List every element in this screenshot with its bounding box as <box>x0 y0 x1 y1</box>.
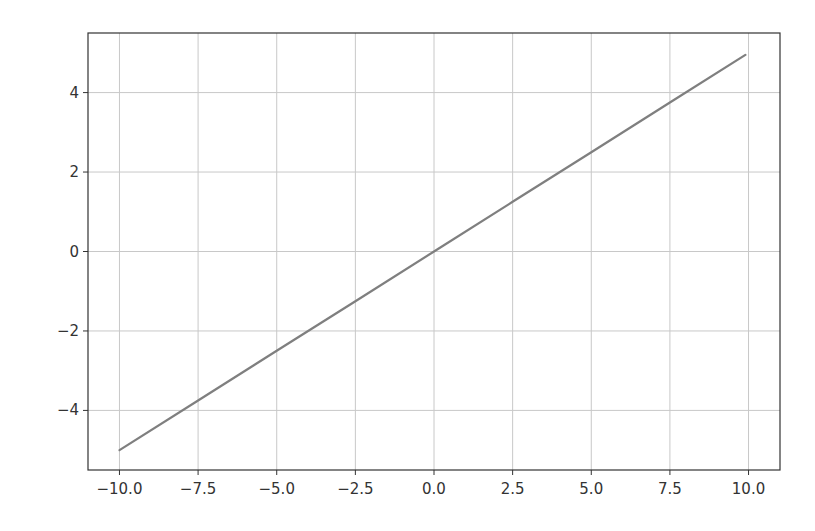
x-tick-label: 2.5 <box>501 480 525 498</box>
x-tick-label: −10.0 <box>96 480 142 498</box>
y-tick-label: 4 <box>69 84 79 102</box>
y-axis-ticks: −4−2024 <box>57 84 88 420</box>
line-chart: −10.0−7.5−5.0−2.50.02.55.07.510.0 −4−202… <box>0 0 815 531</box>
y-tick-label: 2 <box>69 163 79 181</box>
x-tick-label: −2.5 <box>337 480 373 498</box>
x-tick-label: −5.0 <box>259 480 295 498</box>
y-tick-label: −4 <box>57 401 79 419</box>
x-tick-label: 7.5 <box>658 480 682 498</box>
x-tick-label: −7.5 <box>180 480 216 498</box>
x-tick-label: 5.0 <box>579 480 603 498</box>
x-tick-label: 10.0 <box>732 480 765 498</box>
x-axis-ticks: −10.0−7.5−5.0−2.50.02.55.07.510.0 <box>96 470 765 498</box>
y-tick-label: 0 <box>69 243 79 261</box>
y-tick-label: −2 <box>57 322 79 340</box>
x-tick-label: 0.0 <box>422 480 446 498</box>
